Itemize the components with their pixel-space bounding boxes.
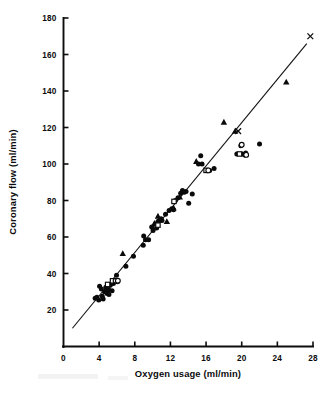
x-tick-label: 20 — [237, 354, 247, 363]
data-point — [96, 297, 101, 302]
data-point — [257, 141, 262, 146]
data-point — [172, 199, 176, 203]
data-point — [131, 254, 136, 259]
y-tick-label: 120 — [42, 124, 57, 133]
y-tick-label: 80 — [47, 197, 57, 206]
data-point — [198, 153, 203, 158]
data-point — [141, 243, 146, 248]
x-tick-label: 24 — [273, 354, 283, 363]
data-point — [146, 237, 151, 242]
x-tick-label: 16 — [201, 354, 211, 363]
scatter-plot: 20406080100120140160180 0481216202428 Ox… — [0, 0, 331, 397]
data-point — [156, 223, 160, 227]
y-tick-label: 40 — [47, 270, 57, 279]
data-point — [239, 142, 244, 147]
data-point — [114, 273, 119, 278]
x-axis-title: Oxygen usage (ml/min) — [135, 368, 241, 379]
figure-container: 20406080100120140160180 0481216202428 Ox… — [0, 0, 331, 397]
x-tick-label: 0 — [61, 354, 66, 363]
y-tick-label: 20 — [47, 306, 57, 315]
x-tick-label: 4 — [97, 354, 102, 363]
y-axis-title: Coronary flow (ml/min) — [7, 129, 18, 234]
data-point — [163, 212, 168, 217]
data-point — [190, 192, 195, 197]
x-tick-label: 12 — [166, 354, 176, 363]
data-point — [200, 162, 205, 167]
data-point — [105, 282, 109, 286]
y-tick-label: 60 — [47, 233, 57, 242]
data-point — [212, 166, 217, 171]
x-tick-label: 8 — [132, 354, 137, 363]
data-point — [101, 297, 106, 302]
data-point — [184, 189, 189, 194]
y-tick-label: 100 — [42, 160, 57, 169]
y-tick-label: 160 — [42, 51, 57, 60]
data-point — [159, 218, 164, 223]
x-tick-label: 28 — [308, 354, 318, 363]
y-tick-label: 180 — [42, 14, 57, 23]
data-point — [244, 152, 249, 157]
data-point — [123, 264, 128, 269]
data-point — [237, 152, 241, 156]
data-point — [115, 278, 120, 283]
y-tick-label: 140 — [42, 87, 57, 96]
data-point — [206, 168, 211, 173]
data-point — [186, 201, 191, 206]
